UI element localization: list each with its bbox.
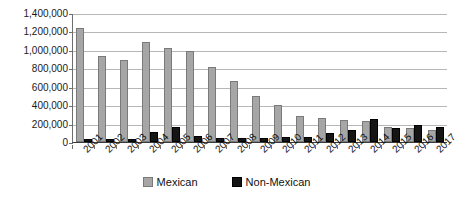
chart-legend: MexicanNon-Mexican xyxy=(0,176,453,188)
x-axis-tick xyxy=(381,145,382,149)
bar-group xyxy=(183,14,205,142)
x-axis-tick xyxy=(403,145,404,149)
x-axis-tick xyxy=(359,145,360,149)
legend-swatch-icon xyxy=(143,177,153,187)
bar-group xyxy=(205,14,227,142)
y-axis-tick-label: 1,200,000 xyxy=(24,27,69,37)
bar-group xyxy=(271,14,293,142)
x-axis-tick xyxy=(204,145,205,149)
bar-group xyxy=(359,14,381,142)
y-axis-tick-label: 1,400,000 xyxy=(24,9,69,19)
bar-mexican-2005 xyxy=(164,48,172,142)
x-axis-tick xyxy=(249,145,250,149)
bar-group xyxy=(95,14,117,142)
x-axis-tick xyxy=(315,145,316,149)
bar-group xyxy=(161,14,183,142)
bar-groups xyxy=(73,14,447,142)
plot-area xyxy=(72,14,447,143)
bar-group xyxy=(381,14,403,142)
bar-mexican-2002 xyxy=(98,56,106,142)
y-axis-tick-label: 400,000 xyxy=(32,101,68,111)
x-axis-tick xyxy=(160,145,161,149)
legend-item-non-mexican[interactable]: Non-Mexican xyxy=(232,176,311,188)
x-axis-tick xyxy=(138,145,139,149)
bar-group xyxy=(227,14,249,142)
bar-mexican-2006 xyxy=(186,51,194,142)
y-axis-tick-label: 0 xyxy=(62,138,68,148)
bar-group xyxy=(403,14,425,142)
x-axis-tick xyxy=(425,145,426,149)
bar-group xyxy=(73,14,95,142)
bar-mexican-2007 xyxy=(208,67,216,142)
y-axis-tick-label: 600,000 xyxy=(32,83,68,93)
bar-mexican-2003 xyxy=(120,60,128,142)
y-axis-tick-label: 1,000,000 xyxy=(24,46,69,56)
bar-mexican-2001 xyxy=(76,28,84,142)
bar-group xyxy=(425,14,447,142)
bar-group xyxy=(315,14,337,142)
y-axis-tick-label: 800,000 xyxy=(32,64,68,74)
bar-group xyxy=(293,14,315,142)
bar-group xyxy=(249,14,271,142)
y-axis-tick-label: 200,000 xyxy=(32,120,68,130)
bar-group xyxy=(337,14,359,142)
bar-group xyxy=(117,14,139,142)
x-axis-tick xyxy=(182,145,183,149)
x-axis-tick xyxy=(72,145,73,149)
x-axis-tick xyxy=(337,145,338,149)
x-axis-tick xyxy=(293,145,294,149)
legend-label: Mexican xyxy=(157,176,198,188)
bar-mexican-2004 xyxy=(142,42,150,142)
y-axis-labels: 1,400,0001,200,0001,000,000800,000600,00… xyxy=(0,0,68,160)
bar-group xyxy=(139,14,161,142)
legend-label: Non-Mexican xyxy=(246,176,311,188)
legend-swatch-icon xyxy=(232,177,242,187)
y-axis-tick xyxy=(69,143,73,144)
x-axis-tick xyxy=(116,145,117,149)
legend-item-mexican[interactable]: Mexican xyxy=(143,176,198,188)
x-axis-tick xyxy=(226,145,227,149)
x-axis-tick xyxy=(271,145,272,149)
x-axis-tick xyxy=(94,145,95,149)
